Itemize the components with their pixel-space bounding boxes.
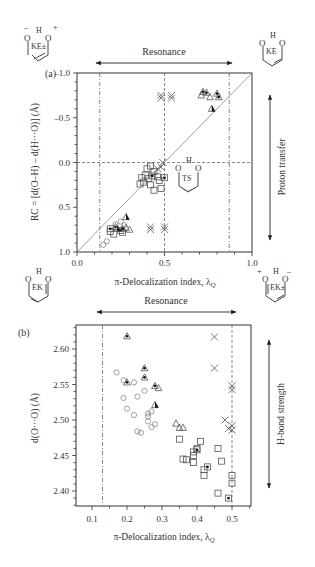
ke-pm-label: KE± [31,42,47,51]
data-point-open-circle [149,425,154,430]
x-tick-label: 0.0 [71,258,83,268]
resonance-label-b: Resonance [144,295,188,306]
data-point-open-square [158,185,164,191]
data-point-open-circle [104,239,109,244]
ts-label: TS [182,174,191,183]
data-point-half-filled-triangle [152,401,159,407]
y-tick-label: 0.0 [59,158,71,168]
svg-text:+: + [53,23,58,32]
svg-text:H: H [270,31,276,40]
y-tick-label: –1.0 [53,68,70,78]
structure-ts: O O H TS [175,156,202,192]
data-point-open-triangle [180,424,187,430]
x-tick-label: 0.1 [86,514,97,524]
data-point-open-square [198,438,204,444]
data-point-x-cross [229,382,236,389]
svg-text:O: O [45,274,52,284]
data-point-open-triangle [176,424,183,430]
data-point-open-circle [114,370,119,375]
structure-ke: O O H KE [259,31,286,66]
x-tick-label: 0.3 [156,514,168,524]
data-point-x-cross [222,417,229,424]
svg-text:H: H [186,156,192,165]
data-point-x-cross [211,333,218,340]
ek-pm-label: EK± [270,283,286,292]
structure-ek-pm: O O H + – EK± [257,267,292,302]
svg-text:O: O [25,274,32,284]
data-point-open-square [191,460,197,466]
panel-a: (a) Resonance 0.00.51.0–1.0–0.50.00.51.0… [29,46,287,289]
y-tick-label: 2.40 [53,486,69,496]
data-points-a [101,88,222,247]
data-point-open-square [137,181,143,187]
data-point-open-circle [131,380,136,385]
y-tick-label: –0.5 [53,113,70,123]
data-point-x-cross [229,422,236,429]
axes-a: 0.00.51.0–1.0–0.50.00.51.0 [53,68,258,268]
y-axis-label-a: RC = [d(O–H) – d(H···O)] (Å) [29,103,41,221]
x-label-sub: Q [211,281,216,289]
data-point-open-square [191,449,197,455]
svg-text:O: O [279,38,286,48]
data-point-x-cross [211,365,218,372]
svg-text:H: H [273,267,279,276]
x-axis-label-b: π-Delocalization index, λQ [113,532,214,544]
structure-ek: O O H EK [25,267,52,302]
ek-label: EK [32,283,43,292]
y-tick-label: 2.55 [53,380,69,390]
structure-ke-pm: O O H – + KE± [23,23,58,61]
svg-text:H: H [36,267,42,276]
data-point-open-circle [124,406,129,411]
x-tick-label: 0.2 [121,514,132,524]
data-point-triangle-with-dot [141,374,148,380]
data-point-square-with-dot [226,495,232,501]
data-point-open-square [215,445,221,451]
svg-text:–: – [286,267,292,276]
data-point-half-filled-triangle [123,213,130,219]
data-point-open-circle [145,419,150,424]
x-label-main: π-Delocalization index, λ [114,277,211,287]
panel-b: (b) Resonance 0.10.20.30.40.52.402.452.5… [18,295,286,544]
y-tick-label: 2.50 [53,415,69,425]
data-point-open-square [219,458,225,464]
data-point-open-circle [138,430,143,435]
x-tick-label: 0.4 [191,514,203,524]
data-point-open-circle [135,429,140,434]
svg-text:O: O [259,38,266,48]
data-point-open-square [215,490,221,496]
resonance-label-a: Resonance [142,46,186,57]
data-point-half-filled-triangle [208,105,215,111]
data-point-open-circle [142,388,147,393]
svg-text:–: – [23,23,29,32]
y-tick-label: 2.60 [53,344,69,354]
x-label-main-b: π-Delocalization index, λ [113,532,210,542]
x-tick-label: 0.5 [226,514,238,524]
data-point-square-with-dot [194,447,200,453]
x-tick-label: 0.5 [159,258,171,268]
panel-b-label: (b) [18,327,30,339]
svg-text:+: + [257,267,262,276]
data-points-b [114,333,236,501]
data-point-triangle-with-dot [152,382,159,388]
x-label-sub-b: Q [210,536,215,544]
data-point-open-triangle [173,420,180,426]
svg-text:O: O [262,274,269,284]
data-point-triangle-with-dot [124,379,131,385]
ke-label: KE [266,47,277,56]
hbond-label: H-bond strength [276,383,286,445]
svg-text:O: O [175,163,182,173]
data-point-open-triangle [207,94,214,100]
y-tick-label: 2.45 [53,451,69,461]
data-point-open-square [191,453,197,459]
y-tick-label: 1.0 [59,247,71,257]
data-point-open-circle [131,412,136,417]
data-point-open-square [177,436,183,442]
data-point-open-circle [121,395,126,400]
svg-text:H: H [36,26,42,35]
proton-transfer-label: Proton transfer [277,138,287,196]
data-point-triangle-with-dot [124,333,131,339]
figure-canvas: (a) Resonance 0.00.51.0–1.0–0.50.00.51.0… [0,0,315,567]
x-axis-label-a: π-Delocalization index, λQ [114,277,215,289]
data-point-open-square [201,472,207,478]
svg-text:O: O [24,33,31,43]
